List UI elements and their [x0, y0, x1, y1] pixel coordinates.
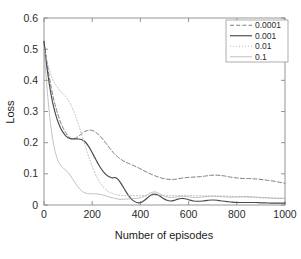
legend-label-0-1: 0.1: [255, 52, 267, 62]
x-axis-title: Number of episodes: [115, 229, 214, 241]
x-tick-label: 0: [41, 208, 47, 220]
y-tick-label: 0.3: [23, 105, 38, 117]
legend-label-0-01: 0.01: [255, 41, 272, 51]
legend-label-0-001: 0.001: [255, 31, 277, 41]
figure-container: 02004006008001000 00.10.20.30.40.50.6 Nu…: [0, 0, 301, 259]
series-line-0-1: [44, 49, 285, 199]
y-axis-tick-labels: 00.10.20.30.40.50.6: [23, 12, 38, 211]
legend: 0.00010.0010.010.1: [226, 20, 288, 62]
y-tick-label: 0.1: [23, 167, 38, 179]
series-line-0-01: [44, 48, 285, 199]
y-tick-label: 0.4: [23, 74, 38, 86]
x-tick-label: 200: [83, 208, 101, 220]
y-tick-label: 0.6: [23, 12, 38, 24]
x-tick-label: 800: [228, 208, 246, 220]
x-tick-label: 400: [132, 208, 150, 220]
y-tick-label: 0.5: [23, 43, 38, 55]
legend-label-0-0001: 0.0001: [255, 20, 281, 30]
x-tick-label: 1000: [273, 208, 297, 220]
x-tick-label: 600: [180, 208, 198, 220]
data-curves: [44, 41, 285, 203]
loss-line-chart: 02004006008001000 00.10.20.30.40.50.6 Nu…: [0, 0, 301, 259]
x-axis-tick-labels: 02004006008001000: [41, 208, 297, 220]
y-tick-label: 0: [32, 199, 38, 211]
series-line-0-0001: [44, 41, 285, 183]
y-axis-title: Loss: [4, 100, 16, 124]
y-tick-label: 0.2: [23, 136, 38, 148]
